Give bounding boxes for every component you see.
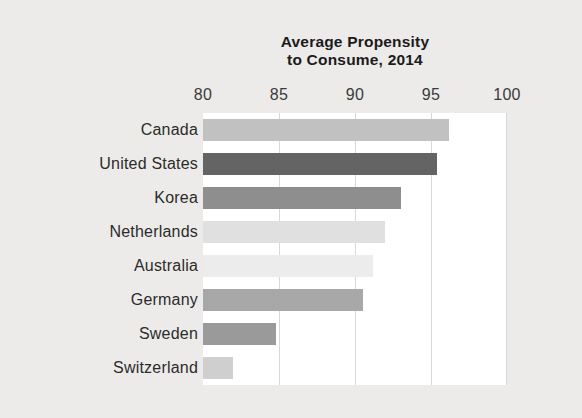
category-label-canada: Canada (141, 113, 198, 147)
x-tick-label-80: 80 (194, 86, 212, 104)
category-label-sweden: Sweden (139, 317, 198, 351)
x-tick-label-95: 95 (422, 86, 440, 104)
chart-figure: Average Propensity to Consume, 2014 8085… (0, 0, 582, 418)
bar-netherlands (203, 221, 385, 243)
chart-title: Average Propensity to Consume, 2014 (203, 33, 507, 69)
chart-title-line-2: to Consume, 2014 (203, 51, 507, 69)
bar-united-states (203, 153, 437, 175)
x-axis-tick-labels: 80859095100 (203, 86, 507, 108)
category-axis-labels: CanadaUnited StatesKoreaNetherlandsAustr… (20, 113, 198, 385)
chart-title-line-1: Average Propensity (203, 33, 507, 51)
x-tick-label-100: 100 (493, 86, 521, 104)
category-label-korea: Korea (154, 181, 198, 215)
category-label-united-states: United States (99, 147, 198, 181)
bar-germany (203, 289, 363, 311)
category-label-germany: Germany (131, 283, 198, 317)
category-label-switzerland: Switzerland (113, 351, 198, 385)
bar-canada (203, 119, 449, 141)
bars (203, 113, 507, 385)
bar-korea (203, 187, 401, 209)
bar-australia (203, 255, 373, 277)
x-tick-label-90: 90 (346, 86, 364, 104)
category-label-netherlands: Netherlands (110, 215, 198, 249)
bar-sweden (203, 323, 276, 345)
plot-area (203, 113, 507, 385)
category-label-australia: Australia (134, 249, 198, 283)
x-tick-label-85: 85 (270, 86, 288, 104)
bar-switzerland (203, 357, 233, 379)
